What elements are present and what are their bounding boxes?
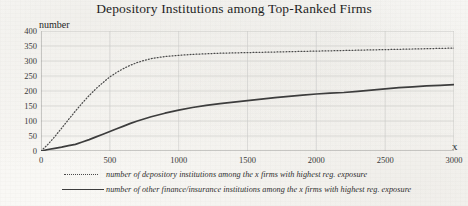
chart-title: Depository Institutions among Top-Ranked… — [0, 1, 468, 17]
x-tick-label: 2000 — [296, 155, 336, 165]
legend-label: number of depository institutions among … — [106, 170, 367, 179]
legend-row: number of depository institutions among … — [62, 167, 458, 182]
y-tick-label: 50 — [5, 131, 37, 141]
y-tick-label: 350 — [5, 41, 37, 51]
legend-label: number of other finance/insurance instit… — [106, 185, 411, 194]
y-tick-label: 200 — [5, 86, 37, 96]
y-tick-label: 100 — [5, 116, 37, 126]
x-tick-label: 0 — [21, 155, 61, 165]
legend-key-solid — [62, 185, 106, 195]
y-tick-label: 250 — [5, 71, 37, 81]
y-axis-label: number — [39, 19, 70, 30]
x-tick-label: 1500 — [228, 155, 268, 165]
legend-row: number of other finance/insurance instit… — [62, 182, 458, 197]
x-tick-label: 2500 — [365, 155, 405, 165]
x-tick-label: 3000 — [434, 155, 468, 165]
plot-area — [41, 31, 454, 151]
x-tick-label: 500 — [90, 155, 130, 165]
chart-svg — [41, 31, 454, 151]
solid-line-sample-icon — [62, 189, 104, 190]
dotted-line-sample-icon — [64, 174, 98, 175]
y-tick-label: 150 — [5, 101, 37, 111]
x-tick-label: 1000 — [159, 155, 199, 165]
chart-legend: number of depository institutions among … — [62, 167, 458, 197]
legend-key-dotted — [62, 170, 106, 180]
y-tick-label: 400 — [5, 26, 37, 36]
y-tick-label: 300 — [5, 56, 37, 66]
